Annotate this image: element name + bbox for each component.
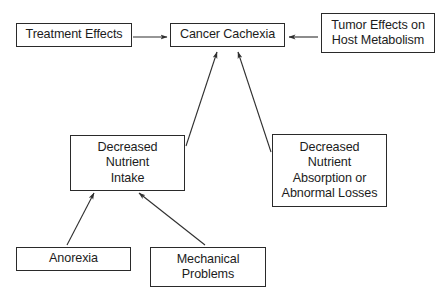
node-label: Cancer Cachexia xyxy=(180,27,275,43)
node-label: Decreased Nutrient Intake xyxy=(97,140,157,187)
node-cancer-cachexia: Cancer Cachexia xyxy=(170,23,285,47)
node-anorexia: Anorexia xyxy=(16,247,131,271)
node-label: Tumor Effects on Host Metabolism xyxy=(331,18,425,49)
arrow-intake-to-cachexia xyxy=(186,52,217,146)
node-label: Decreased Nutrient Absorption or Abnorma… xyxy=(282,140,378,202)
node-label: Treatment Effects xyxy=(26,27,123,43)
arrow-anorexia-to-intake xyxy=(67,193,94,245)
node-mechanical-problems: Mechanical Problems xyxy=(150,247,266,287)
arrow-mechanical-to-intake xyxy=(139,193,205,245)
diagram-canvas: Treatment Effects Cancer Cachexia Tumor … xyxy=(0,0,447,301)
arrow-absorption-to-cachexia xyxy=(238,52,271,152)
node-tumor-effects: Tumor Effects on Host Metabolism xyxy=(321,13,435,53)
node-treatment-effects: Treatment Effects xyxy=(16,23,132,47)
node-label: Anorexia xyxy=(49,251,98,267)
node-decreased-nutrient-absorption: Decreased Nutrient Absorption or Abnorma… xyxy=(272,134,387,207)
node-decreased-nutrient-intake: Decreased Nutrient Intake xyxy=(70,135,185,191)
node-label: Mechanical Problems xyxy=(177,252,240,283)
